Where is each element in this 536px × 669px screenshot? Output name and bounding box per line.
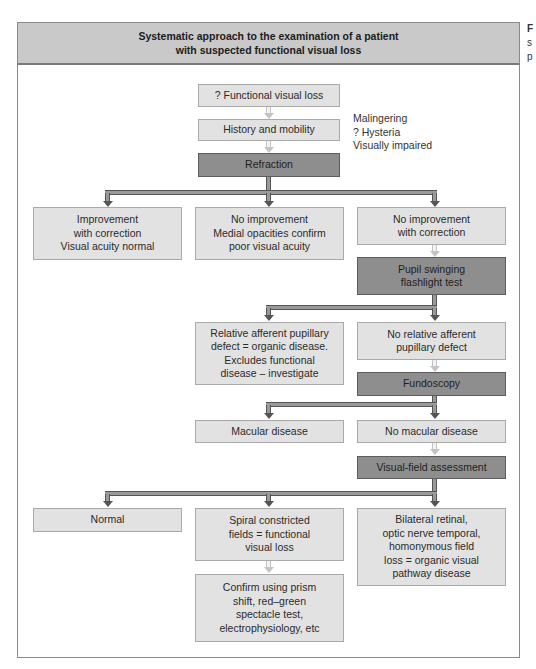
title-line-2: with suspected functional visual loss bbox=[176, 43, 362, 57]
side-caption-line-2: s bbox=[527, 36, 532, 49]
node-fundoscopy: Fundoscopy bbox=[357, 372, 506, 396]
node-label: poor visual acuity bbox=[229, 240, 310, 254]
note-hysteria: ? Hysteria bbox=[353, 126, 432, 140]
connector-branch bbox=[105, 491, 437, 496]
node-history-mobility: History and mobility bbox=[198, 119, 340, 141]
connector-branch bbox=[266, 402, 437, 407]
connector-branch bbox=[266, 305, 437, 310]
node-label: Visual-field assessment bbox=[376, 461, 486, 475]
node-label: flashlight test bbox=[401, 276, 462, 290]
node-label: with correction bbox=[74, 227, 142, 241]
node-label: No relative afferent bbox=[387, 328, 476, 342]
diagram-title: Systematic approach to the examination o… bbox=[17, 22, 520, 65]
node-label: optic nerve temporal, bbox=[382, 527, 480, 541]
note-malingering: Malingering bbox=[353, 112, 432, 126]
node-visual-field-assessment: Visual-field assessment bbox=[357, 456, 506, 479]
node-bilateral-retinal: Bilateral retinal, optic nerve temporal,… bbox=[357, 508, 506, 586]
node-label: fields = functional bbox=[229, 528, 310, 542]
arrow-down-icon bbox=[264, 413, 274, 419]
side-caption-line-1: F bbox=[527, 22, 533, 35]
node-label: Macular disease bbox=[231, 425, 307, 439]
node-label: with correction bbox=[398, 226, 466, 240]
node-label: Medial opacities confirm bbox=[213, 227, 326, 241]
node-label: Improvement bbox=[77, 213, 138, 227]
title-line-1: Systematic approach to the examination o… bbox=[138, 29, 398, 43]
node-label: No improvement bbox=[393, 213, 470, 227]
node-label: disease – investigate bbox=[220, 367, 318, 381]
node-label: Refraction bbox=[245, 158, 293, 172]
node-label: Bilateral retinal, bbox=[395, 513, 467, 527]
arrow-down-icon bbox=[430, 449, 440, 455]
arrow-down-icon bbox=[103, 501, 113, 507]
node-label: shift, red–green bbox=[233, 595, 306, 609]
node-label: Confirm using prism bbox=[223, 581, 316, 595]
node-relative-afferent-pupillary-defect: Relative afferent pupillary defect = org… bbox=[195, 322, 344, 385]
arrow-down-icon bbox=[430, 413, 440, 419]
node-label: electrophysiology, etc bbox=[219, 622, 319, 636]
node-macular-disease: Macular disease bbox=[195, 420, 344, 443]
node-label: spectacle test, bbox=[236, 608, 303, 622]
node-label: pathway disease bbox=[392, 567, 470, 581]
node-no-improvement-with-correction: No improvement with correction bbox=[357, 207, 506, 245]
node-label: Fundoscopy bbox=[403, 377, 460, 391]
node-confirm-tests: Confirm using prism shift, red–green spe… bbox=[195, 574, 344, 642]
node-pupil-swinging-flashlight-test: Pupil swinging flashlight test bbox=[357, 257, 506, 295]
node-label: visual loss bbox=[245, 541, 293, 555]
node-label: Normal bbox=[91, 513, 125, 527]
arrow-down-icon bbox=[264, 501, 274, 507]
node-label: Relative afferent pupillary bbox=[210, 327, 328, 341]
node-label: homonymous field bbox=[389, 540, 474, 554]
node-label: Excludes functional bbox=[224, 354, 314, 368]
node-functional-visual-loss: ? Functional visual loss bbox=[198, 84, 340, 107]
node-no-macular-disease: No macular disease bbox=[357, 420, 506, 443]
side-caption-line-3: p bbox=[527, 50, 533, 63]
connector-branch bbox=[105, 190, 437, 195]
node-refraction: Refraction bbox=[198, 153, 340, 177]
node-label: History and mobility bbox=[223, 123, 315, 137]
side-note: Malingering ? Hysteria Visually impaired bbox=[353, 112, 432, 153]
node-label: Spiral constricted bbox=[229, 514, 310, 528]
node-label: ? Functional visual loss bbox=[215, 89, 324, 103]
node-label: defect = organic disease. bbox=[211, 340, 328, 354]
node-no-improvement-medial-opacities: No improvement Medial opacities confirm … bbox=[195, 207, 344, 260]
node-normal: Normal bbox=[33, 508, 182, 532]
node-spiral-constricted-fields: Spiral constricted fields = functional v… bbox=[195, 508, 344, 561]
node-no-relative-afferent-defect: No relative afferent pupillary defect bbox=[357, 322, 506, 360]
node-improvement-with-correction: Improvement with correction Visual acuit… bbox=[33, 207, 182, 260]
node-label: Pupil swinging bbox=[398, 263, 465, 277]
node-label: No macular disease bbox=[385, 425, 478, 439]
arrow-down-icon bbox=[264, 567, 274, 573]
arrow-down-icon bbox=[430, 315, 440, 321]
arrow-down-icon bbox=[430, 501, 440, 507]
node-label: Visual acuity normal bbox=[61, 240, 155, 254]
node-label: loss = organic visual bbox=[384, 554, 479, 568]
note-visually-impaired: Visually impaired bbox=[353, 139, 432, 153]
node-label: No improvement bbox=[231, 213, 308, 227]
arrow-down-icon bbox=[264, 315, 274, 321]
node-label: pupillary defect bbox=[396, 341, 467, 355]
